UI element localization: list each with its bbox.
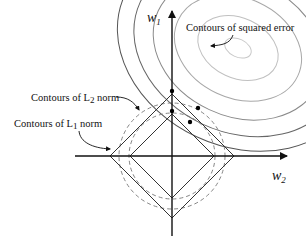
w2-axis-label: w2 <box>272 168 286 185</box>
l1-solution-point-outer <box>170 89 174 93</box>
l2-solution-point-outer <box>196 106 200 110</box>
l2-solution-point-inner <box>188 120 192 124</box>
squared-error-annotation: Contours of squared error <box>186 22 295 33</box>
w1-axis-label: w1 <box>147 10 161 27</box>
l2-norm-leader-arrow <box>116 97 139 110</box>
regularization-contour-diagram: w1 w2 Contours of squared error Contours… <box>0 0 306 248</box>
squared-error-leader-arrow <box>211 35 233 46</box>
error-contour-2 <box>187 3 288 93</box>
l1-norm-leader-arrow <box>79 131 110 149</box>
error-contour-1 <box>222 34 255 62</box>
l1-norm-annotation: Contours of L1 norm <box>14 118 102 131</box>
l1-solution-point-inner <box>170 109 174 113</box>
error-contour-3 <box>157 0 306 121</box>
l2-norm-annotation: Contours of L2 norm <box>31 92 119 105</box>
